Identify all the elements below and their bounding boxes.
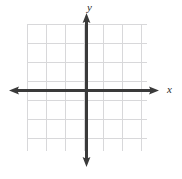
coordinate-plane-figure: x y: [0, 0, 182, 179]
grid-lines-vertical: [28, 24, 142, 151]
x-axis-label: x: [167, 84, 172, 95]
y-axis-label: y: [87, 2, 92, 13]
coordinate-plane-graphic: [0, 0, 182, 179]
